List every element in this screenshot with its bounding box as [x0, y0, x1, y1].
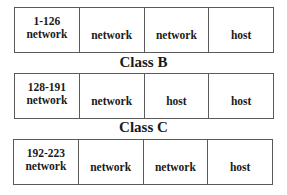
octet-role: host [209, 29, 273, 42]
octet-3-cell: network [144, 140, 209, 184]
octet-4-cell: host [209, 8, 273, 52]
octet-role: host [145, 95, 209, 108]
octet-role: host [209, 95, 273, 108]
octet-2-cell: network [79, 140, 144, 184]
octet-range: 128-191 [15, 81, 79, 94]
octet-role: network [145, 29, 209, 42]
octet-role: network [80, 29, 144, 42]
octet-2-cell: network [80, 8, 145, 52]
octet-range: 1-126 [15, 15, 79, 28]
class-c-address-table: 192-223 network network network host [13, 139, 273, 185]
class-a-address-table: 1-126 network network network host [14, 7, 274, 53]
octet-4-cell: host [209, 74, 273, 118]
octet-role: network [15, 94, 79, 107]
octet-1-cell: 1-126 network [15, 8, 80, 52]
octet-3-cell: network [145, 8, 210, 52]
class-b-label: Class B [0, 55, 287, 70]
octet-role: network [144, 161, 208, 174]
class-b-address-table: 128-191 network network host host [14, 73, 274, 119]
octet-1-cell: 128-191 network [15, 74, 80, 118]
octet-1-cell: 192-223 network [14, 140, 79, 184]
octet-role: network [15, 28, 79, 41]
octet-4-cell: host [208, 140, 272, 184]
octet-role: network [79, 161, 143, 174]
octet-role: host [208, 161, 272, 174]
octet-role: network [80, 95, 144, 108]
octet-role: network [14, 160, 78, 173]
class-c-label: Class C [0, 120, 287, 135]
octet-3-cell: host [145, 74, 210, 118]
octet-2-cell: network [80, 74, 145, 118]
octet-range: 192-223 [14, 147, 78, 160]
